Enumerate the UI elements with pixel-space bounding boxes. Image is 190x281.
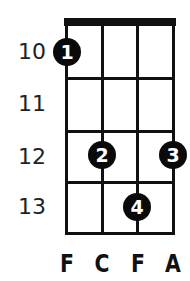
finger-dot-2: 2	[88, 141, 116, 169]
fret-number: 11	[2, 93, 46, 115]
string-label: F	[125, 250, 151, 278]
string-label: A	[160, 250, 186, 278]
string-label: C	[89, 250, 115, 278]
nut-bar	[64, 18, 176, 26]
finger-dot-1: 1	[53, 38, 81, 66]
string-line-4	[172, 22, 175, 234]
string-label: F	[54, 250, 80, 278]
fret-number: 10	[2, 41, 46, 63]
fret-line-4	[65, 232, 175, 235]
fret-line-2	[65, 130, 175, 133]
fret-number: 12	[2, 146, 46, 168]
fret-number: 13	[2, 196, 46, 218]
string-line-2	[101, 22, 104, 234]
finger-dot-4: 4	[123, 193, 151, 221]
fret-line-1	[65, 77, 175, 80]
finger-dot-3: 3	[159, 141, 187, 169]
fret-line-3	[65, 181, 175, 184]
